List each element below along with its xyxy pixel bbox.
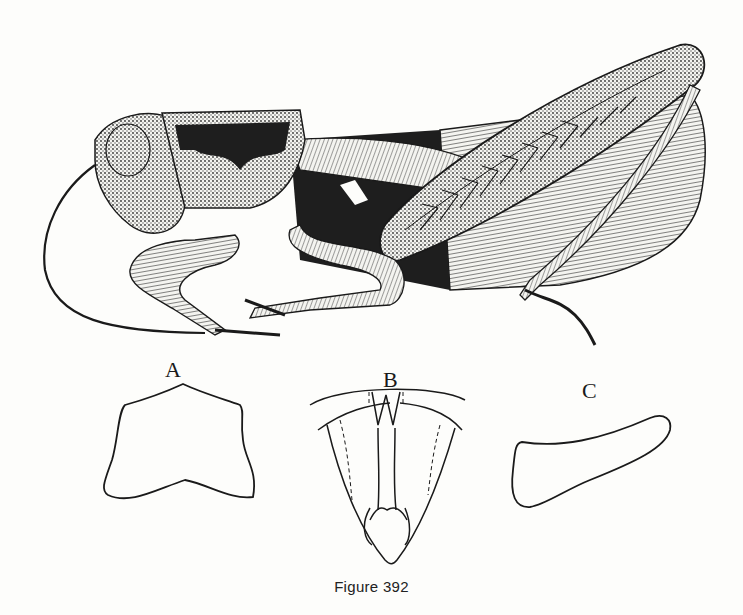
front-leg xyxy=(130,235,239,335)
panel-label-c: C xyxy=(582,378,597,404)
hind-tarsus xyxy=(525,290,595,345)
figure-392: A B C Figure 392 xyxy=(0,0,743,615)
figure-caption: Figure 392 xyxy=(0,578,743,595)
compound-eye xyxy=(106,124,150,176)
grasshopper-illustration xyxy=(0,0,743,370)
front-tarsus xyxy=(215,330,280,335)
panel-label-a: A xyxy=(165,357,181,383)
panel-label-b: B xyxy=(383,367,398,393)
